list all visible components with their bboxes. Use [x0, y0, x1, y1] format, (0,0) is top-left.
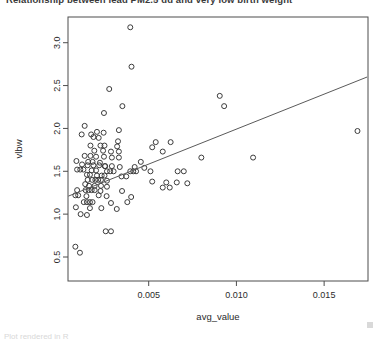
- x-axis-tick-label: 0.005: [137, 290, 160, 300]
- data-point: [88, 153, 93, 158]
- data-point: [82, 153, 87, 158]
- data-point: [108, 149, 113, 154]
- data-point: [109, 155, 114, 160]
- scatter-plot-figure: 0.51.01.52.02.53.0 0.0050.0100.015 avg_v…: [0, 0, 387, 342]
- data-point: [160, 149, 165, 154]
- data-point: [81, 167, 86, 172]
- data-point: [85, 163, 90, 168]
- data-point: [167, 185, 172, 190]
- data-point: [199, 155, 204, 160]
- data-point: [96, 135, 101, 140]
- plot-frame: [68, 17, 368, 281]
- data-point: [79, 132, 84, 137]
- data-point: [222, 104, 227, 109]
- data-point: [168, 140, 173, 145]
- y-axis-tick-label: 3.0: [52, 36, 62, 49]
- data-point: [111, 169, 116, 174]
- data-point: [92, 148, 97, 153]
- y-axis-label: vlbw: [13, 139, 24, 158]
- footer-clipped: Plot rendered in R: [4, 331, 384, 342]
- data-point: [185, 181, 190, 186]
- data-point: [114, 207, 119, 212]
- data-point: [109, 164, 114, 169]
- x-axis-tick-label: 0.015: [313, 290, 336, 300]
- data-point: [107, 87, 112, 92]
- data-point: [103, 229, 108, 234]
- y-axis-tick-label: 0.5: [52, 251, 62, 264]
- data-point: [78, 212, 83, 217]
- x-axis-tick-label: 0.010: [225, 290, 248, 300]
- data-point: [104, 194, 109, 199]
- data-point: [355, 129, 360, 134]
- data-point: [138, 159, 143, 164]
- data-point: [84, 213, 89, 218]
- data-point: [120, 189, 125, 194]
- y-axis-tick-label: 2.5: [52, 79, 62, 92]
- data-point: [150, 145, 155, 150]
- data-point: [108, 229, 113, 234]
- footer-text: Plot rendered in R: [4, 331, 384, 342]
- data-point: [74, 159, 79, 164]
- data-point: [101, 148, 106, 153]
- data-point: [84, 194, 89, 199]
- data-point: [129, 64, 134, 69]
- y-axis-ticks-group: 0.51.01.52.02.53.0: [52, 36, 68, 263]
- data-point: [73, 244, 78, 249]
- y-axis-tick-label: 1.5: [52, 165, 62, 178]
- data-point: [150, 179, 155, 184]
- data-point: [99, 206, 104, 211]
- data-point: [87, 206, 92, 211]
- data-point: [153, 140, 158, 145]
- data-point: [104, 184, 109, 189]
- data-point: [148, 169, 153, 174]
- y-axis-tick-label: 2.0: [52, 122, 62, 135]
- y-axis-tick-label: 1.0: [52, 208, 62, 221]
- x-axis-label: avg_value: [196, 311, 239, 322]
- x-axis-ticks-group: 0.0050.0100.015: [137, 281, 335, 300]
- data-point: [117, 165, 122, 170]
- data-point: [91, 163, 96, 168]
- data-point: [94, 129, 99, 134]
- data-point: [77, 250, 82, 255]
- data-point: [164, 180, 169, 185]
- data-point: [94, 154, 99, 159]
- data-point: [116, 155, 121, 160]
- data-point: [115, 144, 120, 149]
- data-point: [217, 93, 222, 98]
- data-point: [82, 123, 87, 128]
- data-point: [101, 130, 106, 135]
- data-point: [96, 193, 101, 198]
- data-point: [116, 149, 121, 154]
- data-point: [116, 128, 121, 133]
- data-point: [128, 25, 133, 30]
- data-point: [129, 195, 134, 200]
- data-point: [88, 143, 93, 148]
- data-point: [80, 162, 85, 167]
- data-point: [108, 201, 113, 206]
- data-point: [116, 139, 121, 144]
- data-points-group: [73, 25, 360, 255]
- data-point: [73, 205, 78, 210]
- data-point: [120, 104, 125, 109]
- data-point: [181, 169, 186, 174]
- data-point: [251, 155, 256, 160]
- plot-svg: 0.51.01.52.02.53.0 0.0050.0100.015 avg_v…: [0, 0, 387, 342]
- data-point: [101, 154, 106, 159]
- data-point: [125, 200, 130, 205]
- data-point: [101, 111, 106, 116]
- data-point: [175, 169, 180, 174]
- corner-artifact: [367, 322, 373, 328]
- data-point: [160, 185, 165, 190]
- data-point: [174, 180, 179, 185]
